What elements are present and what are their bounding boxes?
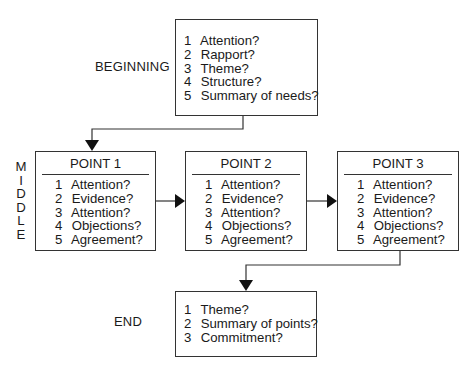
list-item: 2 Rapport? bbox=[184, 48, 319, 62]
presentation-structure-diagram: BEGINNING 1 Attention? 2 Rapport? 3 Them… bbox=[0, 0, 475, 372]
point-1-box: POINT 1 1 Attention? 2 Evidence? 3 Atten… bbox=[35, 151, 156, 251]
list-item: 3 Attention? bbox=[205, 206, 293, 220]
list-item: 5 Agreement? bbox=[357, 233, 445, 247]
list-item: 1 Attention? bbox=[184, 34, 319, 48]
list-item: 3 Attention? bbox=[357, 206, 445, 220]
list-item: 1 Attention? bbox=[357, 178, 445, 192]
point-title: POINT 2 bbox=[186, 156, 306, 171]
list-item: 2 Summary of points? bbox=[184, 317, 318, 331]
end-box: 1 Theme? 2 Summary of points? 3 Commitme… bbox=[175, 291, 317, 357]
arrowhead-right-icon bbox=[327, 194, 337, 208]
list-item: 1 Theme? bbox=[184, 303, 318, 317]
end-label: END bbox=[114, 314, 142, 329]
point-title: POINT 1 bbox=[36, 156, 155, 171]
list-item: 4 Structure? bbox=[184, 75, 319, 89]
list-item: 3 Attention? bbox=[55, 206, 143, 220]
list-item: 5 Summary of needs? bbox=[184, 89, 319, 103]
beginning-label: BEGINNING bbox=[95, 59, 170, 74]
connector-beginning-to-point1 bbox=[92, 115, 243, 141]
point-title: POINT 3 bbox=[338, 156, 458, 171]
point-2-box: POINT 2 1 Attention? 2 Evidence? 3 Atten… bbox=[185, 151, 307, 251]
list-item: 4 Objections? bbox=[55, 219, 143, 233]
list-item: 4 Objections? bbox=[357, 219, 445, 233]
list-item: 1 Attention? bbox=[55, 178, 143, 192]
point-3-box: POINT 3 1 Attention? 2 Evidence? 3 Atten… bbox=[337, 151, 459, 251]
list-item: 5 Agreement? bbox=[205, 233, 293, 247]
point-2-items: 1 Attention? 2 Evidence? 3 Attention? 4 … bbox=[205, 178, 293, 247]
divider bbox=[192, 174, 300, 175]
list-item: 5 Agreement? bbox=[55, 233, 143, 247]
list-item: 2 Evidence? bbox=[357, 192, 445, 206]
point-1-items: 1 Attention? 2 Evidence? 3 Attention? 4 … bbox=[55, 178, 143, 247]
divider bbox=[344, 174, 452, 175]
list-item: 2 Evidence? bbox=[55, 192, 143, 206]
divider bbox=[42, 174, 149, 175]
list-item: 3 Commitment? bbox=[184, 331, 318, 345]
arrowhead-right-icon bbox=[175, 194, 185, 208]
list-item: 4 Objections? bbox=[205, 219, 293, 233]
end-items: 1 Theme? 2 Summary of points? 3 Commitme… bbox=[184, 303, 318, 344]
middle-label: M I D D L E bbox=[14, 160, 28, 242]
list-item: 3 Theme? bbox=[184, 62, 319, 76]
point-3-items: 1 Attention? 2 Evidence? 3 Attention? 4 … bbox=[357, 178, 445, 247]
arrowhead-down-icon bbox=[85, 140, 99, 151]
connector-point3-to-end bbox=[246, 251, 400, 281]
list-item: 2 Evidence? bbox=[205, 192, 293, 206]
arrowhead-down-icon bbox=[239, 280, 253, 291]
list-item: 1 Attention? bbox=[205, 178, 293, 192]
beginning-items: 1 Attention? 2 Rapport? 3 Theme? 4 Struc… bbox=[184, 34, 319, 103]
beginning-box: 1 Attention? 2 Rapport? 3 Theme? 4 Struc… bbox=[175, 19, 318, 116]
